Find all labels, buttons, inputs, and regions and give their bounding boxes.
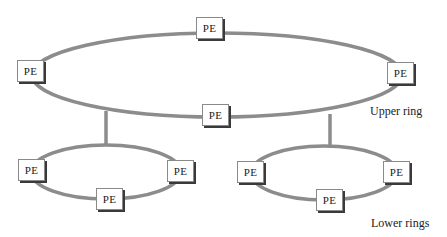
upper-ring-node-top: PE <box>196 17 223 39</box>
lower-right-node-right: PE <box>383 161 410 183</box>
lower-left-node-left: PE <box>18 159 45 181</box>
upper-ring-node-left: PE <box>17 60 44 82</box>
lower-left-node-bottom: PE <box>96 188 123 210</box>
upper-ring-node-right: PE <box>387 62 414 84</box>
lower-right-node-bottom: PE <box>316 189 343 211</box>
lower-rings-label: Lower rings <box>371 216 429 231</box>
upper-ring-node-bottom: PE <box>202 104 229 126</box>
lower-left-node-right: PE <box>167 160 194 182</box>
upper-ring-label: Upper ring <box>370 104 422 119</box>
lower-right-node-left: PE <box>237 161 264 183</box>
